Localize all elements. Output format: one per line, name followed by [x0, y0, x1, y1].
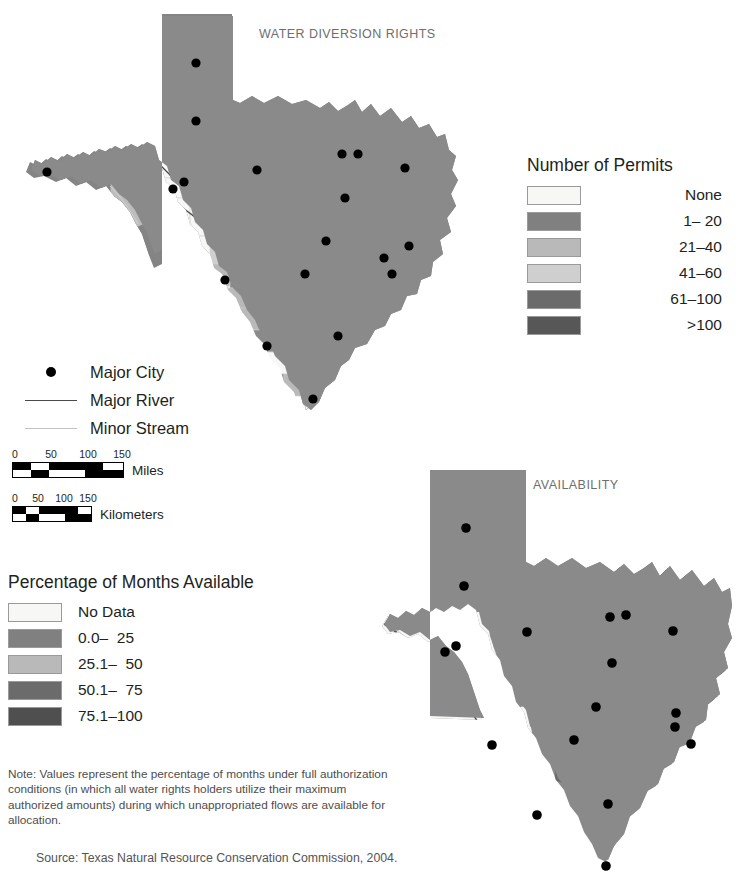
legend-permits-item: 41–60 [527, 261, 732, 285]
legend-label-25-50: 25.1– 50 [62, 655, 143, 673]
legend-permits-item: 21–40 [527, 235, 732, 259]
map-title-availability: AVAILABILITY [533, 478, 619, 492]
legend-swatch-no-data [8, 603, 62, 622]
legend-percentage-item: 0.0– 25 [8, 626, 308, 650]
source-text: Source: Texas Natural Resource Conservat… [36, 851, 397, 865]
scalebar-miles: 0 50 100 150 Miles [12, 448, 124, 478]
legend-swatch-25-50 [8, 655, 62, 674]
legend-permits-item: 61–100 [527, 287, 732, 311]
legend-swatch-0-25 [8, 629, 62, 648]
legend-label-1-20: 1– 20 [581, 212, 732, 230]
scalebar-miles-tick-0: 0 [12, 448, 18, 460]
scalebar-miles-tick-50: 50 [45, 448, 57, 460]
legend-symbol-item: Minor Stream [20, 414, 189, 442]
texas-basin-choropleth-bottom [374, 460, 734, 872]
legend-label-over-100: >100 [581, 316, 732, 334]
legend-swatch-75-100 [8, 707, 62, 726]
map-availability [374, 460, 734, 872]
legend-symbol-item: Major City [20, 358, 189, 386]
texas-county-choropleth-top [14, 14, 458, 410]
scalebar-miles-ticks: 0 50 100 150 [12, 448, 124, 462]
scalebar-km-tick-0: 0 [12, 492, 18, 504]
legend-permits-item: >100 [527, 313, 732, 337]
scalebar-km-tick-100: 100 [55, 492, 73, 504]
legend-permits-item: 1– 20 [527, 209, 732, 233]
scalebar-miles-unit: Miles [132, 463, 164, 478]
scalebar-km-tick-50: 50 [32, 492, 44, 504]
legend-number-of-permits: Number of Permits None 1– 20 21–40 41–60… [527, 155, 732, 339]
legend-percentage-item: No Data [8, 600, 308, 624]
legend-percentage-of-months-available: Percentage of Months Available No Data 0… [8, 572, 308, 730]
scalebar-miles-tick-150: 150 [113, 448, 131, 460]
note-text: Note: Values represent the percentage of… [8, 767, 388, 829]
legend-permits-title: Number of Permits [527, 155, 732, 176]
legend-swatch-1-20 [527, 212, 581, 231]
legend-symbol-item: Major River [20, 386, 189, 414]
minor-stream-icon [20, 428, 82, 429]
legend-swatch-50-75 [8, 681, 62, 700]
major-river-icon [20, 400, 82, 401]
legend-permits-item: None [527, 183, 732, 207]
scalebar-km-ticks: 0 50 100 150 [12, 492, 92, 506]
legend-percentage-item: 25.1– 50 [8, 652, 308, 676]
legend-percentage-title: Percentage of Months Available [8, 572, 308, 593]
legend-label-21-40: 21–40 [581, 238, 732, 256]
legend-label-major-river: Major River [82, 391, 174, 410]
legend-label-41-60: 41–60 [581, 264, 732, 282]
scalebar-km-tick-150: 150 [79, 492, 97, 504]
legend-swatch-over-100 [527, 316, 581, 335]
legend-label-75-100: 75.1–100 [62, 707, 143, 725]
legend-percentage-item: 75.1–100 [8, 704, 308, 728]
legend-percentage-item: 50.1– 75 [8, 678, 308, 702]
scalebar-miles-bar [12, 462, 124, 478]
legend-label-0-25: 0.0– 25 [62, 629, 134, 647]
major-city-icon [20, 367, 82, 377]
scalebar-kilometers: 0 50 100 150 Kilometers [12, 492, 92, 522]
legend-label-61-100: 61–100 [581, 290, 732, 308]
legend-map-symbols: Major City Major River Minor Stream [20, 358, 189, 442]
legend-label-minor-stream: Minor Stream [82, 419, 189, 438]
legend-swatch-21-40 [527, 238, 581, 257]
scalebar-km-bar [12, 506, 92, 522]
legend-swatch-41-60 [527, 264, 581, 283]
legend-label-major-city: Major City [82, 363, 164, 382]
scalebar-km-unit: Kilometers [100, 507, 164, 522]
legend-swatch-61-100 [527, 290, 581, 309]
legend-label-50-75: 50.1– 75 [62, 681, 143, 699]
legend-swatch-none [527, 186, 581, 205]
legend-label-no-data: No Data [62, 603, 135, 621]
scalebar-miles-tick-100: 100 [79, 448, 97, 460]
map-title-water-diversion-rights: WATER DIVERSION RIGHTS [259, 27, 436, 41]
legend-label-none: None [581, 186, 732, 204]
